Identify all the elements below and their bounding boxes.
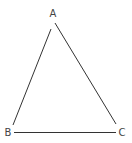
vertex-label-b: B bbox=[5, 127, 12, 138]
triangle-diagram: A B C bbox=[0, 0, 132, 143]
vertex-label-a: A bbox=[50, 8, 57, 19]
edge-a-b bbox=[13, 29, 51, 125]
vertex-label-c: C bbox=[119, 127, 126, 138]
edge-a-c bbox=[55, 23, 116, 124]
